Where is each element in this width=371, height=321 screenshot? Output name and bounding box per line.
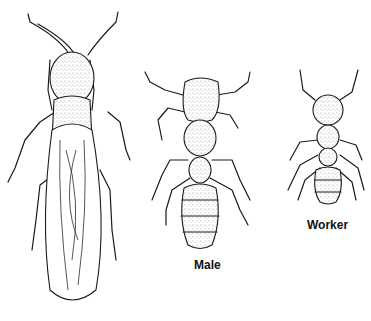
worker-label: Worker [307, 218, 348, 232]
insect-castes-illustration: Male Worker [0, 0, 371, 321]
male-insect-drawing [145, 72, 250, 249]
male-label: Male [194, 258, 221, 272]
winged-insect-drawing [8, 12, 130, 300]
worker-insect-drawing [288, 70, 364, 204]
